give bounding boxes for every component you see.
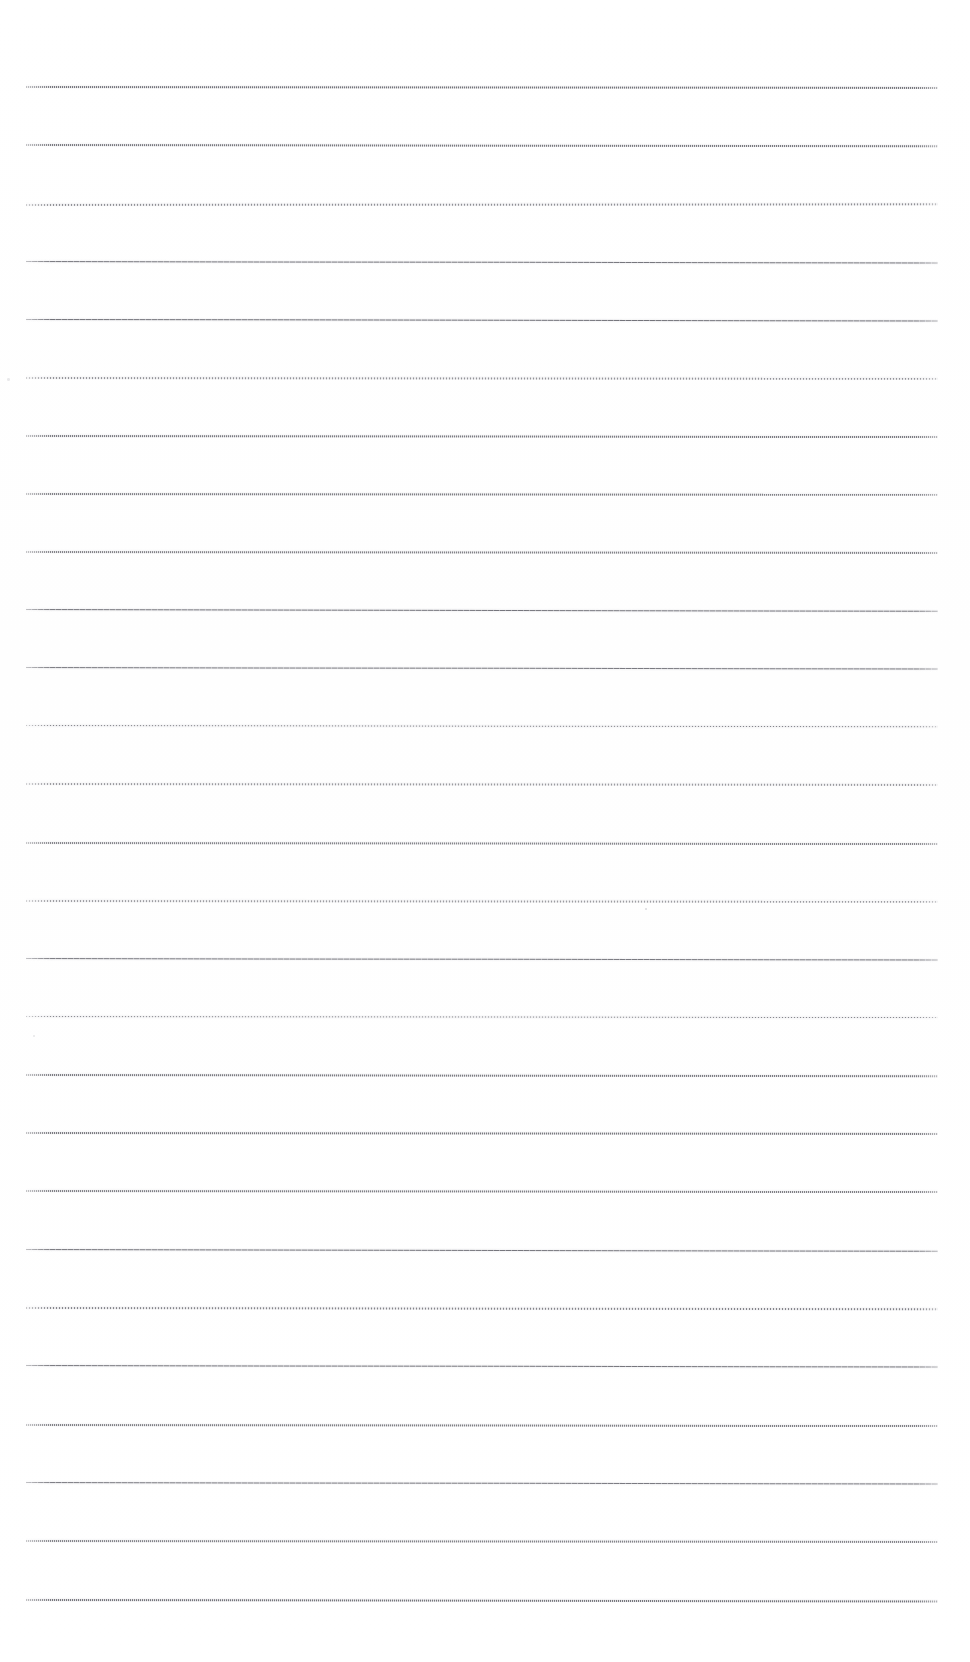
ruled-line: [26, 958, 938, 961]
line-end-fade: [26, 723, 938, 730]
ruled-line: [26, 1540, 938, 1543]
line-end-fade: [26, 1363, 938, 1371]
ruled-line-layer: [0, 0, 970, 1662]
ruled-line: [26, 842, 938, 845]
line-end-fade: [26, 433, 938, 440]
line-end-fade: [26, 1480, 938, 1488]
scan-speck: [7, 378, 10, 381]
line-end-fade: [26, 202, 938, 209]
line-end-fade: [26, 665, 938, 673]
line-end-fade: [26, 1188, 938, 1195]
ruled-line: [26, 1307, 938, 1310]
scanned-page: [0, 0, 970, 1662]
ruled-line: [26, 900, 938, 902]
line-end-fade: [26, 1597, 938, 1604]
ruled-line: [26, 1190, 938, 1193]
ruled-line: [26, 725, 938, 728]
ruled-line: [26, 1424, 938, 1427]
ruled-line: [26, 319, 938, 322]
ruled-line: [26, 783, 938, 786]
ruled-line: [26, 377, 938, 379]
line-end-fade: [26, 898, 938, 905]
scan-speck: [33, 1035, 35, 1037]
ruled-line: [26, 144, 938, 147]
line-end-fade: [26, 1422, 938, 1429]
line-end-fade: [26, 317, 938, 324]
ruled-line: [26, 435, 938, 438]
line-end-fade: [26, 259, 938, 267]
line-end-fade: [26, 491, 938, 498]
line-end-fade: [26, 607, 938, 615]
line-end-fade: [26, 1130, 938, 1137]
ruled-line: [26, 1365, 938, 1368]
ruled-line: [26, 1249, 938, 1252]
ruled-line: [26, 609, 938, 612]
ruled-line: [26, 551, 938, 554]
ruled-line: [26, 86, 938, 89]
line-end-fade: [26, 1072, 938, 1079]
ruled-line: [26, 1482, 938, 1485]
line-end-fade: [26, 375, 938, 382]
line-end-fade: [26, 840, 938, 847]
scan-speck: [645, 908, 647, 910]
line-end-fade: [26, 1305, 938, 1312]
line-end-fade: [26, 1538, 938, 1545]
ruled-line: [26, 1016, 938, 1019]
ruled-line: [26, 493, 938, 495]
line-end-fade: [26, 549, 938, 556]
line-end-fade: [26, 956, 938, 964]
ruled-line: [26, 1599, 938, 1602]
ruled-line: [26, 1074, 938, 1077]
ruled-line: [26, 1132, 938, 1135]
ruled-line: [26, 667, 938, 670]
line-end-fade: [26, 84, 938, 91]
ruled-line: [26, 261, 938, 264]
line-end-fade: [26, 1247, 938, 1255]
ruled-line: [26, 204, 938, 206]
line-end-fade: [26, 781, 938, 788]
line-end-fade: [26, 142, 938, 149]
line-end-fade: [26, 1014, 938, 1021]
